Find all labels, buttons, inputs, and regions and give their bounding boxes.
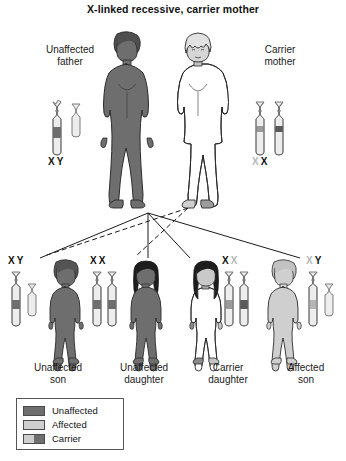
child-1-x-chromosome [12, 272, 20, 326]
legend-item-unaffected: Unaffected [23, 404, 117, 417]
child-2-caption: Unaffected daughter [102, 362, 186, 386]
legend-item-affected: Affected [23, 418, 117, 431]
child-2-x-chromosome-2 [108, 272, 116, 326]
child-2-genotype: XX [90, 255, 107, 266]
child-4-chromosome-pair [306, 270, 340, 332]
child-2-x-chromosome-1 [93, 272, 101, 326]
legend-label-unaffected: Unaffected [52, 406, 98, 416]
child-3-caption-line2: daughter [186, 374, 270, 386]
child-2-chromosome-pair [90, 270, 122, 332]
child-1-caption-line1: Unaffected [16, 362, 100, 374]
child-4-y-chromosome [325, 284, 333, 316]
child-4-allele-1: X [306, 255, 315, 266]
child-2-allele-1: X [90, 255, 99, 266]
child-1-caption: Unaffected son [16, 362, 100, 386]
legend-label-carrier: Carrier [52, 434, 81, 444]
father-x-chromosome [53, 101, 61, 156]
child-1-allele-2: Y [17, 255, 26, 266]
child-1-y-chromosome [28, 284, 36, 316]
legend-swatch-affected [23, 420, 45, 430]
child-2-caption-line1: Unaffected [102, 362, 186, 374]
pedigree-diagram: X-linked recessive, carrier mother Unaff… [0, 0, 346, 461]
mother-chromosome-pair [248, 100, 298, 156]
child-3-x-chromosome-2 [240, 272, 248, 326]
child-4-figure [262, 258, 306, 366]
child-4-caption-line2: son [264, 374, 346, 386]
child-4-x-chromosome [309, 272, 317, 326]
child-3-genotype: XX [222, 255, 239, 266]
child-1-genotype: XY [8, 255, 25, 266]
child-3-chromosome-pair [222, 270, 254, 332]
legend-item-carrier: Carrier [23, 432, 117, 445]
father-genotype: XY [48, 156, 65, 167]
mother-allele-2: X [261, 156, 270, 167]
mother-x-chromosome-2 [275, 102, 283, 155]
mother-allele-1: X [252, 156, 261, 167]
child-1-figure [44, 258, 88, 366]
child-3-caption-line1: Carrier [186, 362, 270, 374]
father-y-chromosome [72, 104, 80, 137]
father-figure [96, 30, 158, 210]
mother-x-chromosome-1 [256, 102, 264, 155]
father-chromosome-pair [44, 100, 90, 156]
child-4-caption: Affected son [264, 362, 346, 386]
child-4-allele-2: Y [315, 255, 324, 266]
child-3-allele-1: X [222, 255, 231, 266]
child-1-allele-1: X [8, 255, 17, 266]
child-2-figure [124, 258, 168, 366]
mother-caption-line2: mother [238, 56, 322, 68]
legend: Unaffected Affected Carrier [16, 398, 124, 450]
father-allele-2: Y [57, 156, 66, 167]
child-3-allele-2: X [231, 255, 240, 266]
page-title: X-linked recessive, carrier mother [0, 3, 346, 15]
legend-label-affected: Affected [52, 420, 87, 430]
child-4-caption-line1: Affected [264, 362, 346, 374]
mother-figure [168, 32, 228, 210]
legend-swatch-unaffected [23, 406, 45, 416]
child-1-caption-line2: son [16, 374, 100, 386]
mother-genotype: XX [252, 156, 269, 167]
mother-caption-line1: Carrier [238, 44, 322, 56]
child-1-chromosome-pair [8, 270, 40, 332]
child-4-genotype: XY [306, 255, 323, 266]
child-2-caption-line2: daughter [102, 374, 186, 386]
legend-swatch-carrier [23, 434, 45, 444]
child-3-x-chromosome-1 [225, 272, 233, 326]
child-3-caption: Carrier daughter [186, 362, 270, 386]
child-2-allele-2: X [99, 255, 108, 266]
mother-caption: Carrier mother [238, 44, 322, 68]
father-allele-1: X [48, 156, 57, 167]
